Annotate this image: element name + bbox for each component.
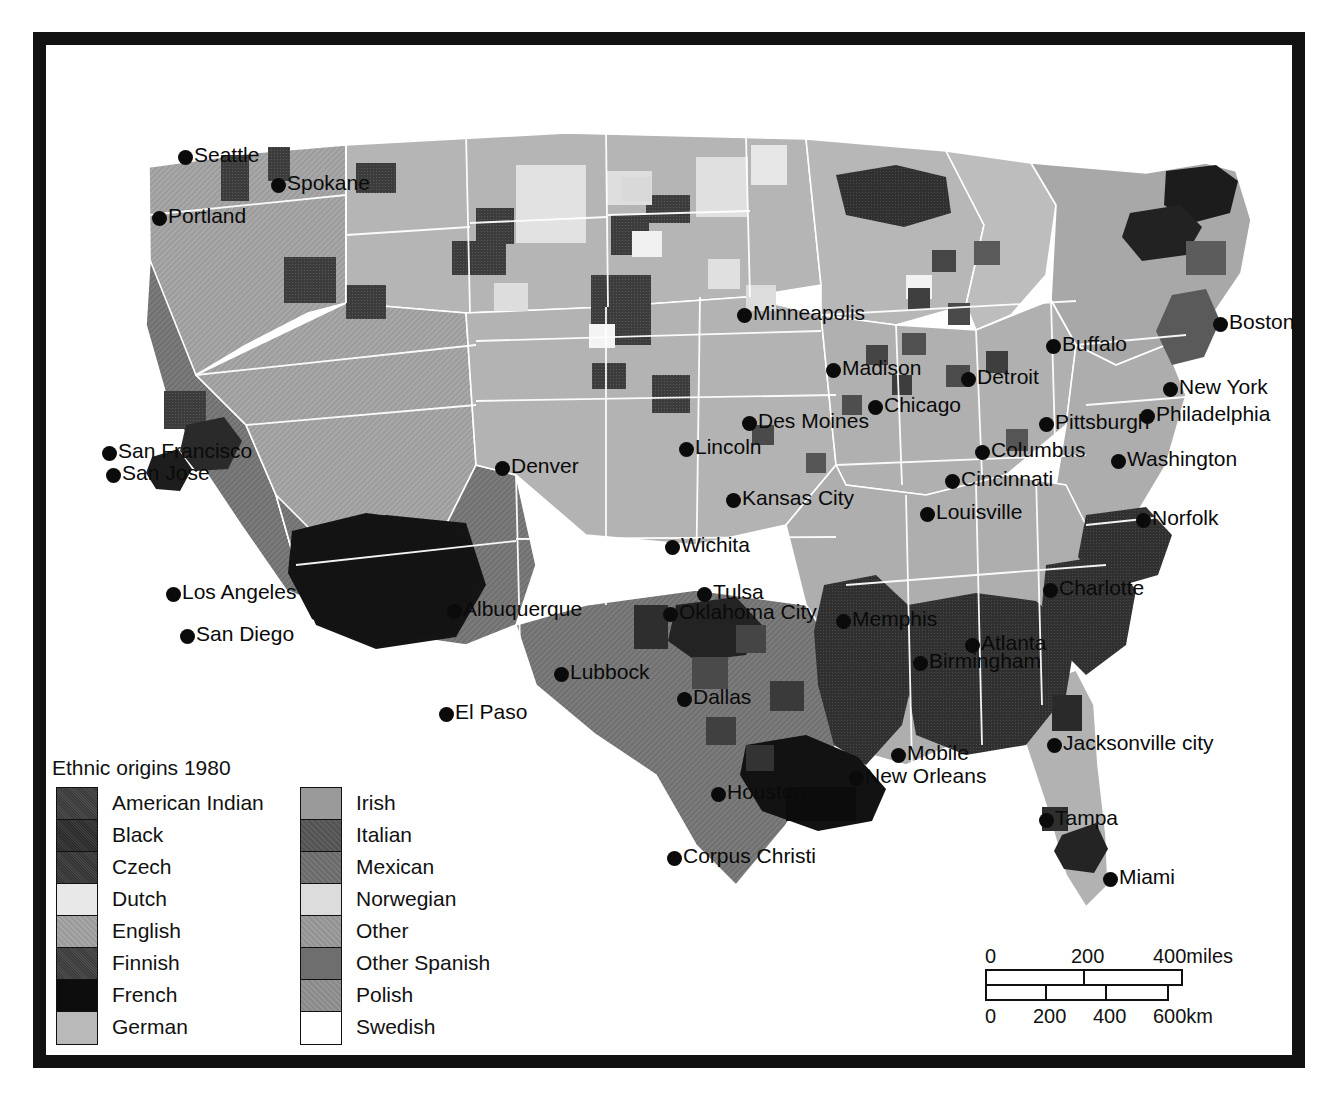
legend-label: Finnish: [112, 947, 264, 979]
legend-label: Polish: [356, 979, 490, 1011]
scale-bar: 0200400miles 0200400600km: [985, 945, 1275, 1029]
city-marker-dot: [975, 445, 990, 460]
city-label: Lubbock: [554, 661, 649, 683]
legend-swatch: [57, 852, 97, 884]
city-name: Chicago: [884, 393, 961, 416]
legend-label: German: [112, 1011, 264, 1043]
city-marker-dot: [891, 748, 906, 763]
city-label: Dallas: [677, 686, 751, 708]
legend-label: Other: [356, 915, 490, 947]
city-marker-dot: [152, 211, 167, 226]
city-marker-dot: [961, 372, 976, 387]
city-name: Wichita: [681, 533, 750, 556]
city-marker-dot: [1140, 409, 1155, 424]
city-marker-dot: [677, 692, 692, 707]
city-marker-dot: [178, 150, 193, 165]
city-name: New Orleans: [865, 764, 986, 787]
city-label: Cincinnati: [945, 468, 1053, 490]
city-marker-dot: [495, 461, 510, 476]
city-label: Boston: [1213, 311, 1294, 333]
city-marker-dot: [868, 400, 883, 415]
city-marker-dot: [1163, 382, 1178, 397]
city-marker-dot: [920, 507, 935, 522]
city-label: New York: [1163, 376, 1268, 398]
map-figure: SeattleSpokanePortlandMinneapolisBuffalo…: [0, 0, 1337, 1102]
city-label: Houston: [711, 781, 805, 803]
city-name: Seattle: [194, 143, 259, 166]
city-label: San Diego: [180, 623, 294, 645]
city-marker-dot: [1103, 872, 1118, 887]
city-name: Corpus Christi: [683, 844, 816, 867]
scale-miles-tick-label: 0: [985, 945, 996, 968]
city-marker-dot: [913, 656, 928, 671]
city-name: Lubbock: [570, 660, 649, 683]
legend-swatch: [301, 820, 341, 852]
city-label: Buffalo: [1046, 333, 1127, 355]
scale-tick-km-400: [1105, 986, 1107, 999]
legend-swatches-left: [56, 787, 98, 1045]
city-name: Kansas City: [742, 486, 854, 509]
city-name: San Diego: [196, 622, 294, 645]
legend-label: Italian: [356, 819, 490, 851]
city-name: Des Moines: [758, 409, 869, 432]
scale-km-tick-label: 0: [985, 1005, 996, 1028]
scale-km-tick-label: 200: [1033, 1005, 1066, 1028]
city-name: Spokane: [287, 171, 370, 194]
city-marker-dot: [711, 787, 726, 802]
city-label: Washington: [1111, 448, 1237, 470]
city-marker-dot: [1136, 513, 1151, 528]
city-name: Mobile: [907, 741, 969, 764]
legend-label: Swedish: [356, 1011, 490, 1043]
city-marker-dot: [1047, 738, 1062, 753]
city-label: Minneapolis: [737, 302, 865, 324]
city-marker-dot: [1039, 417, 1054, 432]
scale-miles-tick-label: 400miles: [1153, 945, 1233, 968]
city-label: Corpus Christi: [667, 845, 816, 867]
city-marker-dot: [1046, 339, 1061, 354]
city-name: Memphis: [852, 607, 937, 630]
legend-label: Dutch: [112, 883, 264, 915]
city-name: Minneapolis: [753, 301, 865, 324]
legend-swatch: [301, 1012, 341, 1044]
city-label: Albuquerque: [447, 598, 582, 620]
city-label: Kansas City: [726, 487, 854, 509]
city-label: Madison: [826, 357, 921, 379]
legend-label: Other Spanish: [356, 947, 490, 979]
legend-swatch: [301, 884, 341, 916]
city-label: Philadelphia: [1140, 403, 1270, 425]
legend-swatch: [57, 948, 97, 980]
city-name: Houston: [727, 780, 805, 803]
city-name: Miami: [1119, 865, 1175, 888]
city-label: Miami: [1103, 866, 1175, 888]
city-name: El Paso: [455, 700, 527, 723]
city-label: Jacksonville city: [1047, 732, 1214, 754]
legend-label: Black: [112, 819, 264, 851]
city-label: Denver: [495, 455, 579, 477]
city-name: Jacksonville city: [1063, 731, 1214, 754]
city-label: New Orleans: [849, 765, 986, 787]
city-name: Pittsburgh: [1055, 410, 1150, 433]
city-name: Albuquerque: [463, 597, 582, 620]
city-marker-dot: [447, 604, 462, 619]
city-name: Washington: [1127, 447, 1237, 470]
city-label: Lincoln: [679, 436, 762, 458]
city-label: San Jose: [106, 462, 210, 484]
city-name: Cincinnati: [961, 467, 1053, 490]
city-label: Des Moines: [742, 410, 869, 432]
city-name: Dallas: [693, 685, 751, 708]
city-label: Oklahoma City: [663, 601, 817, 623]
city-marker-dot: [667, 851, 682, 866]
city-label: Los Angeles: [166, 581, 296, 603]
city-name: Philadelphia: [1156, 402, 1270, 425]
legend-swatch: [301, 852, 341, 884]
city-name: Birmingham: [929, 649, 1041, 672]
city-marker-dot: [106, 468, 121, 483]
city-marker-dot: [166, 587, 181, 602]
scale-bar-km: [985, 984, 1169, 1001]
city-name: Madison: [842, 356, 921, 379]
legend-swatch: [57, 788, 97, 820]
legend-swatch: [57, 980, 97, 1012]
city-label: Portland: [152, 205, 246, 227]
city-marker-dot: [271, 178, 286, 193]
legend-label: American Indian: [112, 787, 264, 819]
